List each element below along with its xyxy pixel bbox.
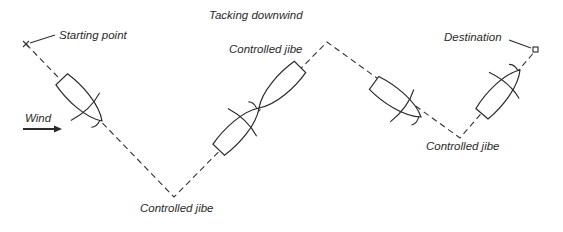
destination-marker-icon	[533, 47, 538, 52]
tacking-diagram	[0, 0, 563, 232]
sailboat-icon	[252, 60, 306, 114]
sailboat-icon-3	[361, 68, 431, 134]
sailboat-icon-4	[465, 56, 533, 126]
destination-leader-line	[509, 40, 531, 48]
course-path	[26, 42, 536, 197]
start-marker-icon	[23, 41, 29, 47]
wind-arrow-icon	[23, 126, 62, 133]
start-leader-line	[30, 35, 55, 43]
